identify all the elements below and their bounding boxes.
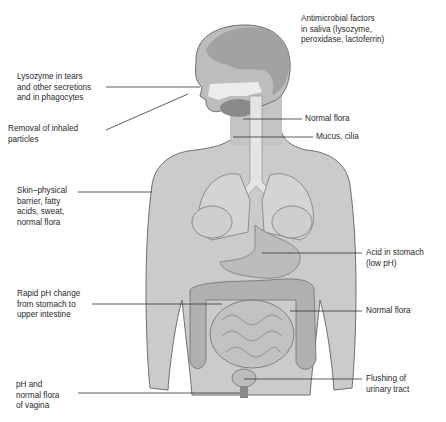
label-inhaled-particles: Removal of inhaled particles	[8, 124, 78, 145]
breast-left	[192, 206, 232, 238]
label-skin: Skin–physical barrier, fatty acids, swea…	[17, 186, 67, 228]
label-stomach-acid: Acid in stomach (low pH)	[366, 248, 424, 269]
bladder	[232, 369, 256, 387]
small-intestine	[210, 300, 294, 368]
label-normal-flora-colon: Normal flora	[366, 306, 411, 317]
label-urinary: Flushing of urinary tract	[366, 374, 409, 395]
label-rapid-ph: Rapid pH change from stomach to upper in…	[17, 289, 80, 321]
label-vagina: pH and normal flora of vagina	[16, 380, 59, 412]
label-lysozyme-tears: Lysozyme in tears and other secretions a…	[17, 72, 91, 104]
label-normal-flora-throat: Normal flora	[305, 114, 350, 125]
breast-right	[272, 206, 312, 238]
label-mucus-cilia: Mucus, cilia	[316, 132, 359, 143]
urethra	[240, 386, 248, 398]
label-saliva: Antimicrobial factors in saliva (lysozym…	[301, 14, 384, 46]
